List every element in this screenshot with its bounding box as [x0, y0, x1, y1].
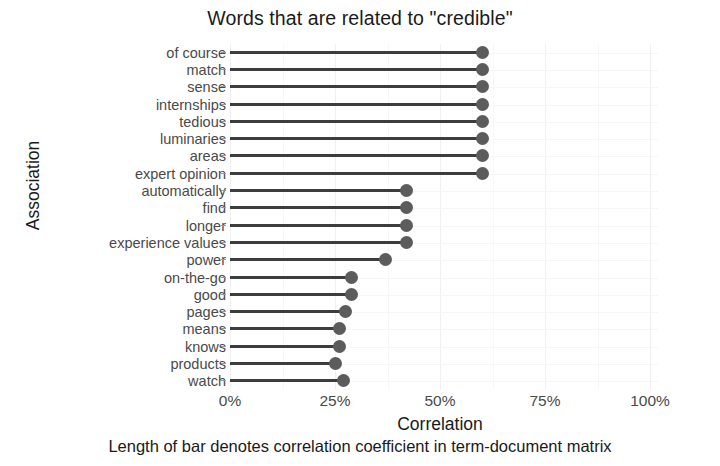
- y-tick-mark: [221, 86, 226, 87]
- lollipop-stem: [230, 310, 346, 313]
- lollipop-dot[interactable]: [476, 98, 489, 111]
- lollipop-stem: [230, 224, 406, 227]
- y-tick-mark: [221, 69, 226, 70]
- y-tick-label: good: [6, 287, 226, 303]
- lollipop-row[interactable]: [228, 44, 658, 62]
- y-tick-mark: [221, 121, 226, 122]
- lollipop-row[interactable]: [228, 320, 658, 338]
- x-tick-label: 100%: [605, 392, 695, 410]
- y-tick-mark: [221, 328, 226, 329]
- y-tick-label: knows: [6, 339, 226, 355]
- lollipop-stem: [230, 103, 482, 106]
- y-tick-label: match: [6, 62, 226, 78]
- lollipop-dot[interactable]: [333, 322, 346, 335]
- lollipop-dot[interactable]: [333, 340, 346, 353]
- lollipop-stem: [230, 241, 406, 244]
- lollipop-row[interactable]: [228, 338, 658, 356]
- y-tick-label: tedious: [6, 114, 226, 130]
- lollipop-row[interactable]: [228, 217, 658, 235]
- lollipop-row[interactable]: [228, 61, 658, 79]
- lollipop-row[interactable]: [228, 251, 658, 269]
- lollipop-stem: [230, 276, 352, 279]
- lollipop-dot[interactable]: [476, 167, 489, 180]
- y-tick-label: experience values: [6, 235, 226, 251]
- x-tick-label: 50%: [395, 392, 485, 410]
- y-tick-mark: [221, 311, 226, 312]
- lollipop-row[interactable]: [228, 78, 658, 96]
- lollipop-row[interactable]: [228, 355, 658, 373]
- lollipop-dot[interactable]: [339, 305, 352, 318]
- chart-caption: Length of bar denotes correlation coeffi…: [0, 437, 720, 456]
- lollipop-row[interactable]: [228, 286, 658, 304]
- y-tick-label: luminaries: [6, 131, 226, 147]
- y-tick-mark: [221, 104, 226, 105]
- lollipop-dot[interactable]: [476, 63, 489, 76]
- y-tick-mark: [221, 259, 226, 260]
- y-tick-label: watch: [6, 373, 226, 389]
- lollipop-stem: [230, 172, 482, 175]
- lollipop-stem: [230, 362, 335, 365]
- x-tick-label: 25%: [290, 392, 380, 410]
- lollipop-stem: [230, 293, 352, 296]
- lollipop-stem: [230, 189, 406, 192]
- y-tick-mark: [221, 52, 226, 53]
- lollipop-stem: [230, 379, 343, 382]
- y-tick-mark: [221, 346, 226, 347]
- lollipop-stem: [230, 137, 482, 140]
- y-tick-label: internships: [6, 97, 226, 113]
- lollipop-dot[interactable]: [476, 80, 489, 93]
- y-tick-mark: [221, 277, 226, 278]
- y-tick-label: means: [6, 321, 226, 337]
- lollipop-row[interactable]: [228, 147, 658, 165]
- y-tick-label: expert opinion: [6, 166, 226, 182]
- y-tick-mark: [221, 190, 226, 191]
- lollipop-row[interactable]: [228, 182, 658, 200]
- chart-title: Words that are related to "credible": [0, 7, 720, 30]
- y-tick-mark: [221, 242, 226, 243]
- lollipop-dot[interactable]: [345, 288, 358, 301]
- y-axis-tick-labels: of coursematchsenseinternshipstediouslum…: [0, 44, 226, 390]
- y-tick-label: products: [6, 356, 226, 372]
- lollipop-dot[interactable]: [337, 374, 350, 387]
- chart-container: Words that are related to "credible" Ass…: [0, 0, 720, 466]
- lollipop-dot[interactable]: [379, 253, 392, 266]
- lollipop-stem: [230, 258, 385, 261]
- y-tick-mark: [221, 380, 226, 381]
- lollipop-stem: [230, 120, 482, 123]
- y-tick-label: automatically: [6, 183, 226, 199]
- plot-area: [228, 44, 658, 390]
- lollipop-row[interactable]: [228, 372, 658, 390]
- lollipop-dot[interactable]: [400, 184, 413, 197]
- lollipop-row[interactable]: [228, 130, 658, 148]
- y-tick-mark: [221, 207, 226, 208]
- y-tick-label: longer: [6, 218, 226, 234]
- lollipop-stem: [230, 345, 339, 348]
- lollipop-dot[interactable]: [476, 46, 489, 59]
- lollipop-dot[interactable]: [476, 132, 489, 145]
- lollipop-dot[interactable]: [329, 357, 342, 370]
- lollipop-stem: [230, 51, 482, 54]
- lollipop-row[interactable]: [228, 234, 658, 252]
- lollipop-row[interactable]: [228, 165, 658, 183]
- lollipop-dot[interactable]: [476, 115, 489, 128]
- y-tick-mark: [221, 138, 226, 139]
- lollipop-dot[interactable]: [476, 149, 489, 162]
- y-tick-mark: [221, 225, 226, 226]
- y-tick-mark: [221, 173, 226, 174]
- x-tick-label: 0%: [185, 392, 275, 410]
- lollipop-row[interactable]: [228, 303, 658, 321]
- lollipop-stem: [230, 154, 482, 157]
- lollipop-row[interactable]: [228, 96, 658, 114]
- lollipop-dot[interactable]: [400, 236, 413, 249]
- y-tick-mark: [221, 363, 226, 364]
- y-tick-label: on-the-go: [6, 270, 226, 286]
- x-axis-title: Correlation: [230, 414, 650, 435]
- lollipop-dot[interactable]: [400, 219, 413, 232]
- lollipop-row[interactable]: [228, 269, 658, 287]
- x-tick-label: 75%: [500, 392, 590, 410]
- lollipop-row[interactable]: [228, 113, 658, 131]
- lollipop-row[interactable]: [228, 199, 658, 217]
- lollipop-stem: [230, 206, 406, 209]
- lollipop-dot[interactable]: [400, 201, 413, 214]
- lollipop-dot[interactable]: [345, 271, 358, 284]
